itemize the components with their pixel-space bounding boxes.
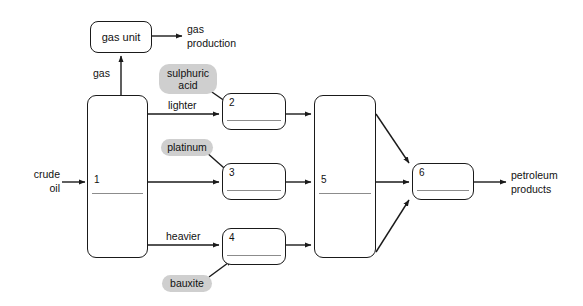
edge-node-5-bottom-to-node-6 <box>376 200 409 252</box>
gas-unit-label: gas unit <box>102 31 141 43</box>
chip-sulphuric-acid-line-1: sulphuric <box>167 67 209 80</box>
chip-sulphuric-acid-line-2: acid <box>178 79 197 92</box>
node-3[interactable]: 3 <box>222 163 286 200</box>
crude-oil-line-2: oil <box>8 182 60 196</box>
petroleum-products-output-label: petroleum products <box>511 169 558 196</box>
node-6[interactable]: 6 <box>412 163 474 200</box>
process-flow-diagram: crude oil gas production petroleum produ… <box>0 0 583 306</box>
chip-bauxite[interactable]: bauxite <box>162 275 212 292</box>
crude-oil-line-1: crude <box>8 168 60 182</box>
flow-label-gas: gas <box>93 67 110 80</box>
crude-oil-input-label: crude oil <box>8 168 60 195</box>
gas-production-line-1: gas <box>187 23 236 37</box>
node-4-number: 4 <box>229 232 235 244</box>
node-5-number: 5 <box>321 174 327 186</box>
chip-sulphuric-acid[interactable]: sulphuric acid <box>159 64 217 94</box>
flow-label-lighter: lighter <box>168 99 197 112</box>
node-6-number: 6 <box>419 167 425 179</box>
node-2-rule <box>227 120 280 121</box>
gas-production-output-label: gas production <box>187 23 236 50</box>
node-6-rule <box>417 190 469 191</box>
chip-bauxite-label: bauxite <box>170 277 204 290</box>
node-1-number: 1 <box>94 174 100 186</box>
edge-node-5-top-to-node-6 <box>376 114 409 163</box>
node-4-rule <box>227 255 280 256</box>
node-3-number: 3 <box>229 167 235 179</box>
chip-platinum[interactable]: platinum <box>161 139 213 156</box>
node-4[interactable]: 4 <box>222 228 286 265</box>
flow-label-heavier: heavier <box>166 230 200 243</box>
node-2-number: 2 <box>229 97 235 109</box>
node-5[interactable]: 5 <box>314 95 376 258</box>
petroleum-products-line-2: products <box>511 183 558 197</box>
node-1-rule <box>92 193 143 194</box>
node-2[interactable]: 2 <box>222 93 286 130</box>
node-gas-unit[interactable]: gas unit <box>90 21 152 53</box>
node-5-rule <box>319 193 371 194</box>
node-3-rule <box>227 190 280 191</box>
petroleum-products-line-1: petroleum <box>511 169 558 183</box>
gas-production-line-2: production <box>187 37 236 51</box>
node-1[interactable]: 1 <box>87 95 148 258</box>
chip-platinum-label: platinum <box>167 141 207 154</box>
